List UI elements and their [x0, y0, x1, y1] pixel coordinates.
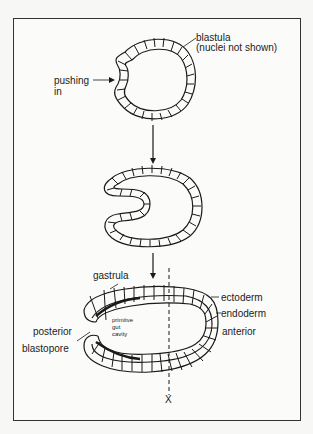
- label-gastrula: gastrula: [93, 270, 129, 281]
- label-blastopore: blastopore: [22, 343, 69, 354]
- label-gut-2: gut: [112, 324, 120, 331]
- label-ectoderm: ectoderm: [221, 292, 263, 303]
- label-endoderm: endoderm: [221, 308, 266, 319]
- section-marker-x: X: [165, 394, 172, 405]
- invagination-cells: [104, 165, 202, 247]
- gastrula-cells: [84, 285, 218, 372]
- label-in: in: [54, 86, 62, 97]
- blastula-cells: [115, 38, 196, 121]
- gastrulation-drawing: [0, 0, 313, 434]
- label-gut-3: cavity: [112, 331, 127, 338]
- label-nuclei-note: (nuclei not shown): [196, 42, 277, 53]
- label-gut-1: primitve: [112, 317, 133, 324]
- label-anterior: anterior: [222, 326, 256, 337]
- label-posterior: posterior: [33, 326, 72, 337]
- label-pushing: pushing: [54, 75, 89, 86]
